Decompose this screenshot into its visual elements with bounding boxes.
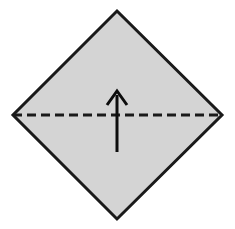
origami-diagram-canvas (0, 0, 235, 229)
origami-figure-svg (0, 0, 235, 229)
